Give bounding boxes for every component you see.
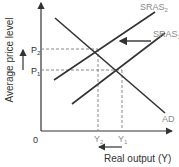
sras1-curve [72, 33, 165, 104]
sras1-label: SRAS1 [153, 29, 179, 40]
sras-shift-diagram: Average price level P2 P1 0 Y2 Y1 Real o… [0, 0, 179, 167]
p1-label: P1 [31, 66, 41, 77]
sras2-curve [54, 12, 155, 80]
ad-curve [55, 18, 165, 113]
p2-label: P2 [31, 45, 41, 56]
y1-label: Y1 [118, 134, 128, 145]
origin-label: 0 [33, 135, 38, 145]
sras2-label: SRAS2 [140, 2, 169, 13]
y2-label: Y2 [94, 134, 104, 145]
x-axis-label: Real output (Y) [104, 153, 171, 164]
y-axis-label: Average price level [4, 18, 15, 103]
ad-label: AD [162, 114, 175, 124]
